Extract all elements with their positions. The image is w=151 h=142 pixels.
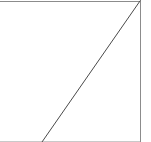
plot-background <box>0 0 151 142</box>
figure-root: Cropped plot region: white panel with a … <box>0 0 151 142</box>
plot-canvas <box>0 0 151 142</box>
